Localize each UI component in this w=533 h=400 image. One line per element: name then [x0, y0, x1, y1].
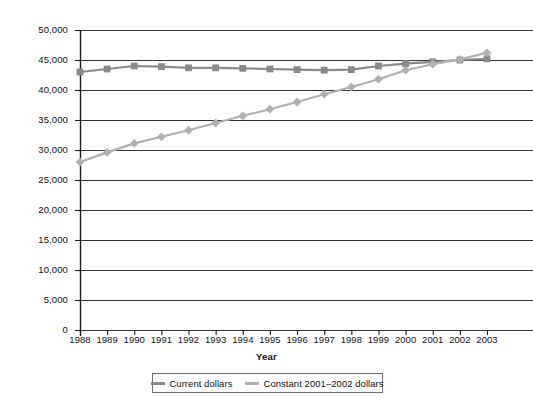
- data-point-marker: [157, 132, 166, 141]
- legend-label: Current dollars: [169, 378, 232, 389]
- chart-legend: Current dollarsConstant 2001–2002 dollar…: [152, 373, 383, 393]
- x-axis-tick-label: 1997: [309, 334, 339, 345]
- x-axis-tick-label: 1995: [255, 334, 285, 345]
- x-axis-title: Year: [0, 351, 533, 362]
- x-axis-tick-label: 1996: [282, 334, 312, 345]
- x-axis-tick-label: 1994: [228, 334, 258, 345]
- data-point-marker: [158, 63, 165, 70]
- legend-swatch-icon: [151, 382, 165, 385]
- x-axis-tick-label: 1988: [65, 334, 95, 345]
- data-point-marker: [130, 139, 139, 148]
- data-point-marker: [321, 67, 328, 74]
- data-point-marker: [267, 66, 274, 73]
- x-axis-tick-label: 1998: [336, 334, 366, 345]
- data-point-marker: [76, 158, 85, 167]
- data-point-marker: [239, 65, 246, 72]
- legend-label: Constant 2001–2002 dollars: [263, 378, 383, 389]
- data-point-marker: [131, 63, 138, 70]
- data-point-marker: [293, 98, 302, 107]
- data-point-marker: [294, 66, 301, 73]
- x-axis-tick-label: 2001: [418, 334, 448, 345]
- x-axis-tick-label: 2002: [445, 334, 475, 345]
- data-point-marker: [374, 75, 383, 84]
- x-axis-tick-label: 1991: [146, 334, 176, 345]
- x-axis-tick-label: 2003: [472, 334, 502, 345]
- x-axis-tick-label: 1992: [174, 334, 204, 345]
- chart-container: 05,00010,00015,00020,00025,00030,00035,0…: [0, 0, 533, 400]
- data-point-marker: [184, 126, 193, 135]
- legend-entry: Constant 2001–2002 dollars: [245, 378, 383, 389]
- x-axis-tick-label: 1989: [92, 334, 122, 345]
- x-axis-tick-label: 1990: [119, 334, 149, 345]
- data-point-marker: [348, 66, 355, 73]
- data-point-marker: [212, 64, 219, 71]
- data-point-marker: [77, 69, 84, 76]
- data-point-marker: [104, 66, 111, 73]
- legend-entry: Current dollars: [151, 378, 232, 389]
- legend-swatch-icon: [245, 382, 259, 385]
- data-point-marker: [238, 111, 247, 120]
- data-point-marker: [375, 63, 382, 70]
- data-point-marker: [103, 148, 112, 157]
- data-point-marker: [320, 90, 329, 99]
- data-point-marker: [401, 66, 410, 75]
- data-point-marker: [211, 119, 220, 128]
- x-axis-tick-label: 2000: [391, 334, 421, 345]
- data-point-marker: [185, 64, 192, 71]
- x-axis-tick-label: 1999: [363, 334, 393, 345]
- data-point-marker: [266, 105, 275, 114]
- x-axis-tick-label: 1993: [201, 334, 231, 345]
